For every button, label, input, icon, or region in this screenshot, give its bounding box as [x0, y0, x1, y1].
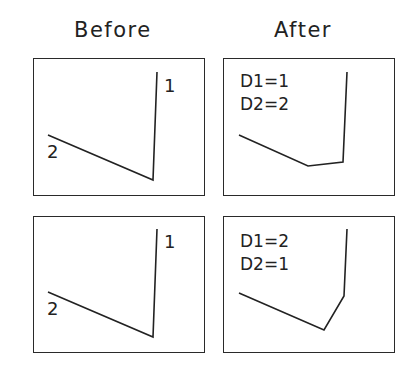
heading-after: After [274, 16, 332, 44]
panel-after-bottom [223, 216, 395, 353]
panel-before-top [33, 58, 205, 196]
heading-before: Before [74, 16, 152, 44]
panel-after-top [223, 58, 395, 196]
chamfer-diagram: Before After 12D1=1D2=212D1=2D2=1 [0, 0, 413, 367]
panel-before-bottom [33, 216, 205, 353]
